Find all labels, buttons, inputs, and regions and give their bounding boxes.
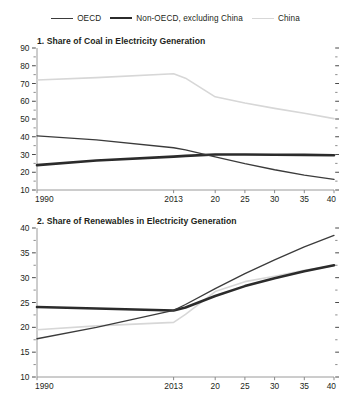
y-tick-label: 40 [20, 132, 30, 142]
x-tick-label: 40 [327, 381, 337, 391]
y-tick-label: 35 [20, 248, 30, 258]
series-line [37, 155, 334, 166]
legend-swatch-non-oecd-icon [110, 17, 132, 19]
series-line [37, 74, 334, 119]
x-tick-label: 35 [300, 381, 310, 391]
y-tick-label: 30 [20, 273, 30, 283]
x-tick-label: 1990 [35, 381, 54, 391]
y-tick-label: 80 [20, 61, 30, 71]
series-line [37, 265, 334, 310]
series-line [37, 235, 334, 338]
legend-entry-oecd: OECD [51, 14, 101, 23]
legend-label-non-oecd: Non-OECD, excluding China [136, 14, 243, 23]
x-tick-label: 35 [300, 194, 310, 204]
panel-2-plot: 40353025201510199020132025303540 [0, 216, 351, 406]
series-line [37, 136, 334, 179]
panel-1-plot: 908070605040302010199020132025303540 [0, 36, 351, 212]
x-tick-label: 25 [240, 194, 250, 204]
legend-swatch-oecd-icon [51, 18, 73, 19]
legend-swatch-china-icon [252, 18, 274, 19]
y-tick-label: 40 [20, 223, 30, 233]
legend-label-china: China [278, 14, 300, 23]
x-tick-label: 1990 [35, 194, 54, 204]
x-tick-label: 20 [211, 381, 221, 391]
y-tick-label: 15 [20, 347, 30, 357]
x-tick-label: 20 [211, 194, 221, 204]
x-tick-label: 40 [327, 194, 337, 204]
chart-panel-coal: 1. Share of Coal in Electricity Generati… [0, 36, 351, 212]
chart-panel-renewables: 2. Share of Renewables in Electricity Ge… [0, 216, 351, 406]
y-tick-label: 10 [20, 185, 30, 195]
x-tick-label: 2013 [164, 381, 183, 391]
x-tick-label: 30 [270, 194, 280, 204]
y-tick-label: 60 [20, 96, 30, 106]
y-tick-label: 10 [20, 372, 30, 382]
chart-legend: OECD Non-OECD, excluding China China [0, 0, 351, 36]
y-tick-label: 20 [20, 167, 30, 177]
legend-label-oecd: OECD [77, 14, 101, 23]
x-tick-label: 30 [270, 381, 280, 391]
y-tick-label: 90 [20, 43, 30, 53]
x-tick-label: 2013 [164, 194, 183, 204]
y-tick-label: 20 [20, 322, 30, 332]
y-tick-label: 25 [20, 298, 30, 308]
legend-entry-china: China [252, 14, 300, 23]
legend-entry-non-oecd: Non-OECD, excluding China [110, 14, 243, 23]
y-tick-label: 50 [20, 114, 30, 124]
y-tick-label: 30 [20, 150, 30, 160]
y-tick-label: 70 [20, 79, 30, 89]
x-tick-label: 25 [240, 381, 250, 391]
